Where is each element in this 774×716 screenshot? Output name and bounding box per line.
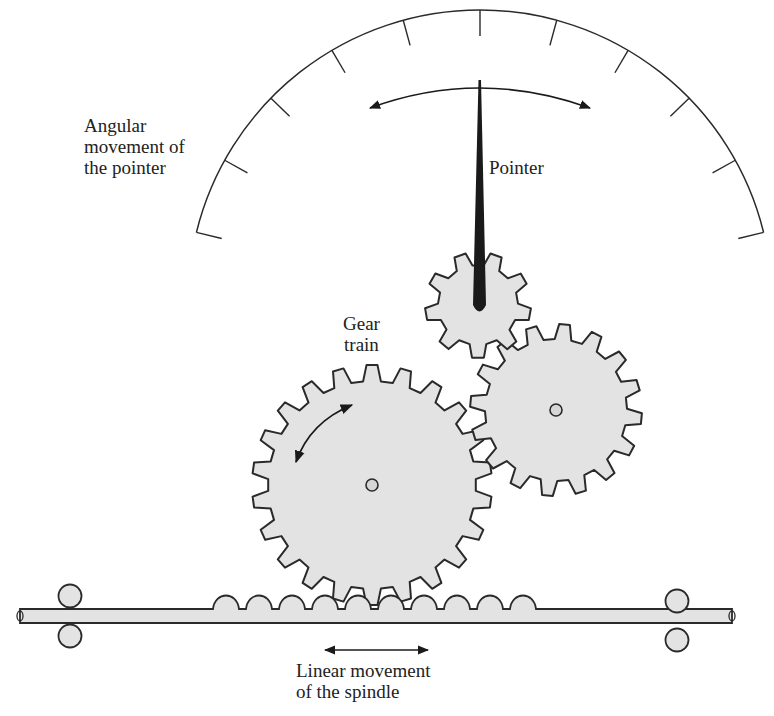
scale-tick	[670, 98, 689, 116]
scale-tick	[403, 20, 410, 45]
label-angular-movement: Angular movement of the pointer	[84, 115, 185, 178]
label-linear-movement: Linear movement of the spindle	[296, 660, 431, 702]
guide-roller-icon	[59, 585, 82, 608]
guide-roller-icon	[666, 590, 689, 613]
scale-tick	[225, 160, 248, 173]
scale-tick	[332, 50, 345, 72]
scale-tick	[196, 232, 221, 238]
scale-tick	[738, 232, 763, 238]
pointer-needle-icon	[473, 80, 486, 312]
scale-tick	[713, 160, 736, 173]
guide-roller-icon	[666, 629, 689, 652]
scale-tick	[271, 98, 290, 116]
label-pointer: Pointer	[489, 157, 544, 178]
label-gear-train: Gear train	[343, 313, 380, 355]
scale-tick	[615, 50, 628, 72]
gear-hub-icon	[550, 404, 562, 416]
large-gear	[253, 365, 492, 605]
gear-hub-icon	[366, 479, 378, 491]
scale-tick	[550, 20, 557, 45]
guide-roller-icon	[59, 625, 82, 648]
diagram-canvas: Angular movement of the pointer Pointer …	[0, 0, 774, 716]
intermediate-gear	[470, 324, 642, 496]
